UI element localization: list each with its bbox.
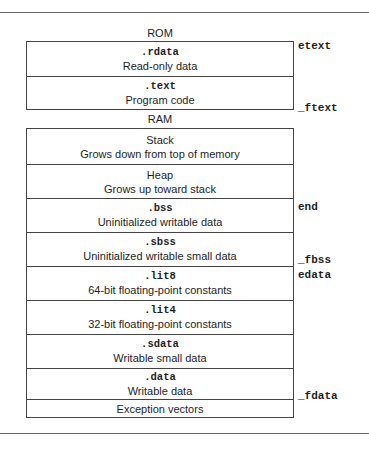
section-desc: Stack (146, 133, 174, 147)
section-name: .lit4 (144, 304, 176, 317)
section-text: .text Program code (27, 76, 293, 109)
section-heap: Heap Grows up toward stack (27, 164, 293, 198)
section-desc: 64-bit floating-point constants (88, 283, 232, 297)
section-desc: Writable small data (113, 351, 206, 365)
rom-box: .rdata Read-only data .text Program code (26, 41, 294, 110)
section-desc: 32-bit floating-point constants (88, 317, 232, 331)
section-stack: Stack Grows down from top of memory (27, 129, 293, 164)
section-desc: Exception vectors (117, 402, 204, 416)
symbol-ftext: _ftext (298, 102, 338, 114)
symbol-fbss: _fbss (298, 254, 331, 266)
section-desc: Program code (125, 93, 194, 107)
ram-box: Stack Grows down from top of memory Heap… (26, 128, 294, 418)
section-sbss: .sbss Uninitialized writable small data (27, 232, 293, 266)
symbol-etext: etext (298, 40, 331, 52)
section-lit4: .lit4 32-bit floating-point constants (27, 300, 293, 334)
section-name: .data (144, 371, 176, 384)
symbol-end: end (298, 201, 318, 213)
bottom-rule (0, 433, 369, 434)
symbol-fdata: _fdata (298, 390, 338, 402)
rom-title: ROM (26, 27, 294, 40)
section-name: .sbss (144, 236, 176, 249)
top-rule (0, 12, 369, 13)
section-desc: Uninitialized writable small data (83, 249, 236, 263)
section-name: .sdata (141, 338, 179, 351)
section-exception-vectors: Exception vectors (27, 399, 293, 417)
section-desc: Uninitialized writable data (98, 215, 223, 229)
section-name: .rdata (141, 46, 179, 59)
section-name: .bss (147, 202, 172, 215)
section-data: .data Writable data (27, 368, 293, 399)
section-desc-2: Grows down from top of memory (80, 147, 240, 161)
section-desc: Writable data (128, 384, 193, 398)
section-desc-2: Grows up toward stack (104, 182, 216, 196)
symbol-edata: edata (298, 269, 331, 281)
section-sdata: .sdata Writable small data (27, 334, 293, 368)
section-name: .text (144, 80, 176, 93)
section-rdata: .rdata Read-only data (27, 42, 293, 76)
section-lit8: .lit8 64-bit floating-point constants (27, 266, 293, 300)
section-bss: .bss Uninitialized writable data (27, 198, 293, 232)
section-name: .lit8 (144, 270, 176, 283)
ram-title: RAM (26, 113, 294, 126)
section-desc: Heap (147, 168, 173, 182)
section-desc: Read-only data (123, 59, 198, 73)
